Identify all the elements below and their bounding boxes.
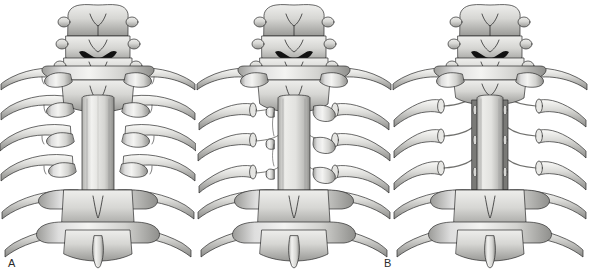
rib-cut-end [250, 133, 257, 147]
rib-cut-end [438, 129, 445, 143]
exposed-dural-tube [477, 95, 503, 197]
lumbar-vertebrae [428, 190, 551, 268]
panel-b: B [196, 0, 392, 278]
rib-cut-end [438, 161, 445, 175]
rib-cut-end [536, 129, 543, 143]
panel-a-illustration [0, 0, 196, 278]
panel-c: C [392, 0, 588, 278]
spinous-process-column [82, 95, 114, 195]
lumbar-vertebrae [232, 190, 355, 268]
rib-cut-end [536, 99, 543, 113]
panel-label-a: A [8, 258, 16, 269]
spinous-process-column [278, 95, 310, 197]
panel-c-illustration [392, 0, 588, 278]
panel-label-b: B [384, 258, 392, 269]
panel-b-illustration [196, 0, 392, 278]
rib-cut-end [536, 161, 543, 175]
rib-cut-end [250, 103, 257, 117]
anatomical-figure: A [0, 0, 589, 278]
rib-cut-end [250, 165, 257, 179]
lamina-edges [273, 112, 275, 166]
lumbar-vertebrae [36, 190, 159, 268]
panel-a: A [0, 0, 196, 278]
rib-cut-end [438, 99, 445, 113]
